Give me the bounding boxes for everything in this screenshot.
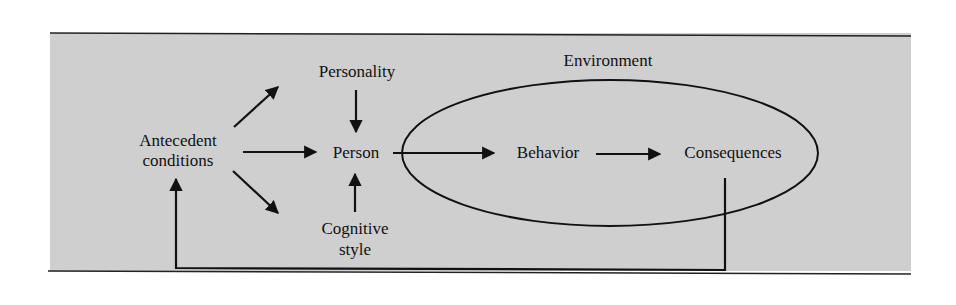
diagram-canvas: Personality Antecedent conditions Person… [0, 0, 956, 305]
bottom-rule [48, 271, 911, 274]
node-person: Person [333, 143, 380, 162]
node-antecedent-line2: conditions [143, 151, 214, 170]
node-consequences: Consequences [684, 143, 781, 162]
node-behavior: Behavior [517, 143, 580, 162]
node-antecedent-line1: Antecedent [139, 131, 217, 150]
node-personality: Personality [319, 62, 396, 81]
group-environment-label: Environment [564, 51, 653, 70]
node-cognitive-line2: style [339, 240, 371, 259]
node-cognitive-line1: Cognitive [321, 219, 388, 238]
